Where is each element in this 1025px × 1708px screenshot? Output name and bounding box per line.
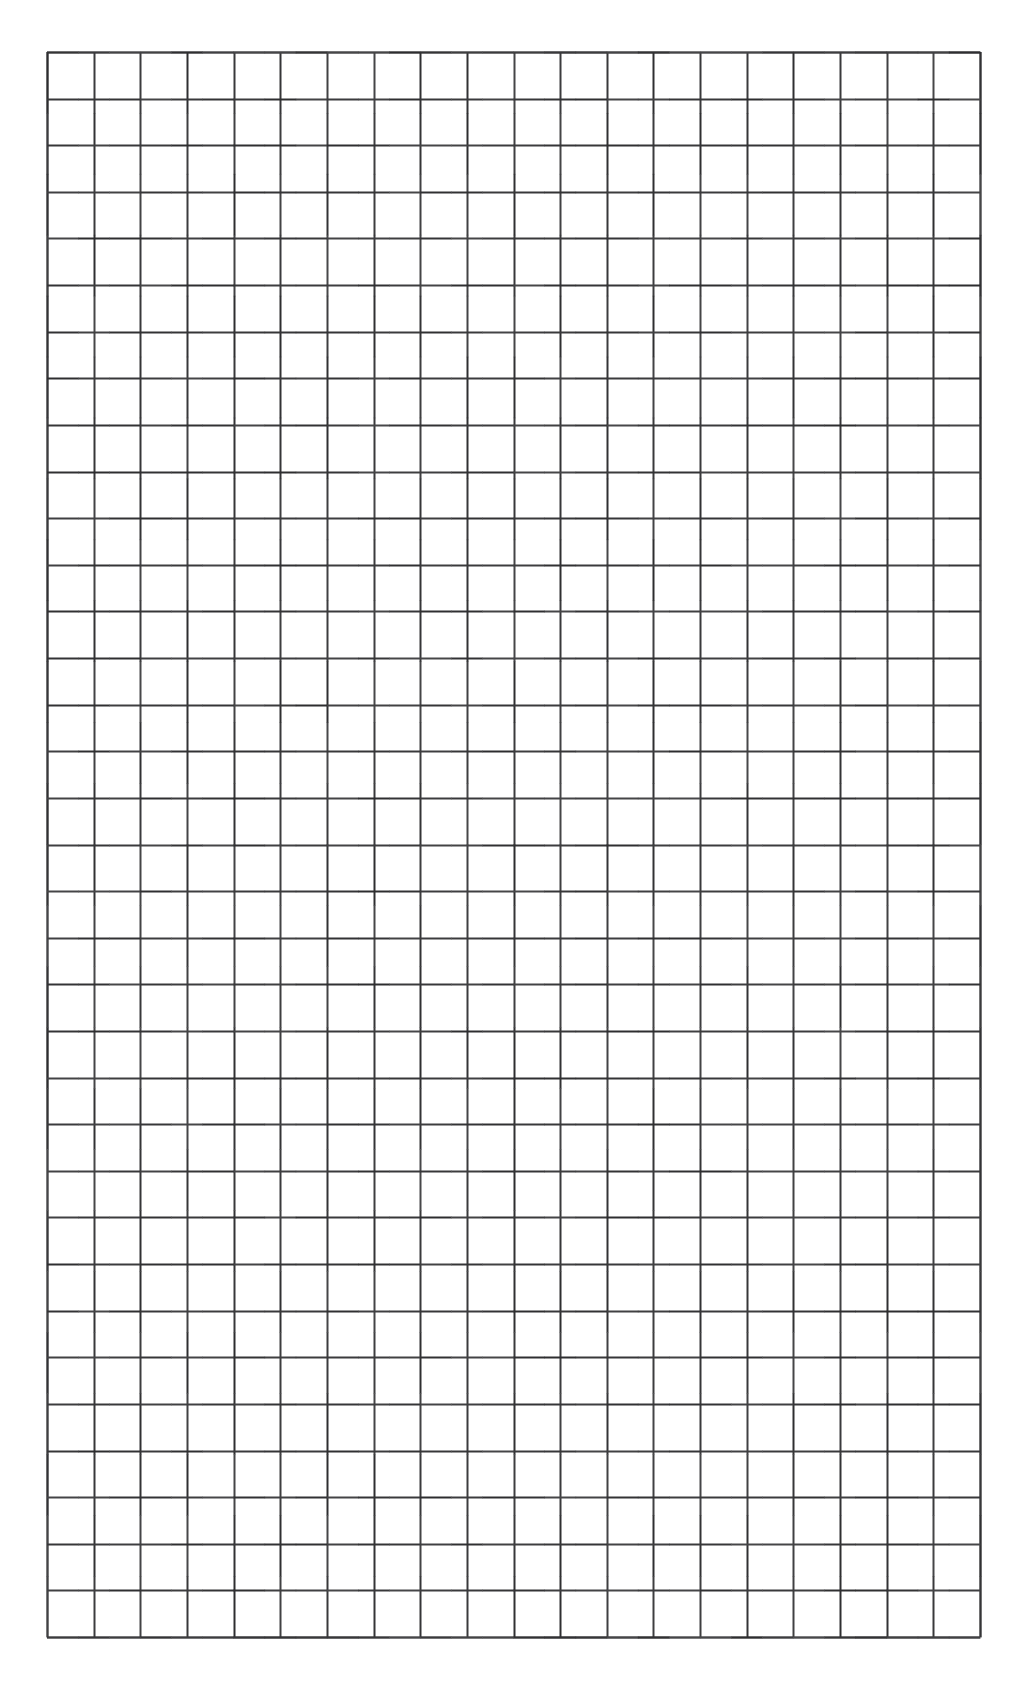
grid-paper-canvas[interactable] xyxy=(43,48,984,1641)
page-canvas: Blank Grid Paper Sheet Scanned blank gra… xyxy=(0,0,1025,1708)
grid-paper-sheet xyxy=(43,48,984,1641)
